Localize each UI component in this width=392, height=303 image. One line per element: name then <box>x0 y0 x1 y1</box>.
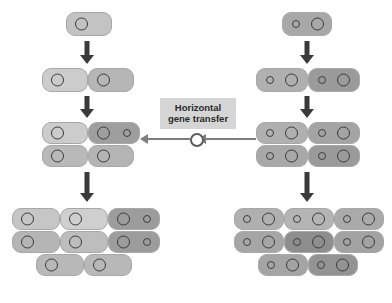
plasmid-circle <box>243 215 251 223</box>
plasmid-circle <box>318 152 326 160</box>
cell-division-arrow <box>296 41 318 64</box>
transfer-arrowhead-left <box>140 134 148 144</box>
bacterial-cell <box>108 208 160 230</box>
arrow-shaft <box>305 41 310 56</box>
arrow-shaft <box>305 172 310 194</box>
arrow-head <box>300 193 314 202</box>
chromosome-circle <box>337 150 350 163</box>
plasmid-circle <box>293 215 301 223</box>
chromosome-circle <box>93 259 106 272</box>
bacterial-cell <box>334 208 384 230</box>
chromosome-circle <box>337 74 350 87</box>
bacterial-cell <box>256 122 308 144</box>
chromosome-circle <box>97 127 110 140</box>
plasmid-circle <box>318 76 326 84</box>
plasmid-circle <box>243 238 251 246</box>
plasmid-circle <box>267 261 275 269</box>
bacterial-cell <box>88 145 134 167</box>
chromosome-circle <box>285 127 298 140</box>
bacterial-cell <box>256 68 308 92</box>
chromosome-circle <box>286 259 299 272</box>
chromosome-circle <box>285 150 298 163</box>
chromosome-circle <box>312 236 325 249</box>
bacterial-cell <box>282 12 332 36</box>
bacterial-cell <box>88 68 134 92</box>
chromosome-circle <box>285 74 298 87</box>
plasmid-circle <box>293 238 301 246</box>
chromosome-circle <box>97 150 110 163</box>
diagram-canvas: Horizontal gene transfer <box>0 0 392 303</box>
bacterial-cell <box>308 68 360 92</box>
arrow-head <box>300 55 314 64</box>
plasmid-circle <box>266 152 274 160</box>
bacterial-cell <box>60 208 108 230</box>
horizontal-gene-transfer-label: Horizontal gene transfer <box>160 98 236 129</box>
chromosome-circle <box>51 127 64 140</box>
arrow-shaft <box>85 172 90 194</box>
bacterial-cell <box>234 231 284 253</box>
arrow-head <box>300 109 314 118</box>
bacterial-cell <box>42 122 88 144</box>
bacterial-cell <box>284 208 334 230</box>
chromosome-circle <box>337 127 350 140</box>
arrow-head <box>80 193 94 202</box>
bacterial-cell <box>60 231 108 253</box>
bacterial-cell <box>334 231 384 253</box>
bacterial-cell <box>84 254 132 276</box>
plasmid-circle <box>266 129 274 137</box>
chromosome-circle <box>362 236 375 249</box>
plasmid-circle <box>292 20 300 28</box>
plasmid-circle <box>143 238 151 246</box>
chromosome-circle <box>51 150 64 163</box>
transfer-line-from-donor <box>206 138 256 140</box>
plasmid-circle <box>343 215 351 223</box>
plasmid-circle <box>317 261 325 269</box>
bacterial-cell <box>256 145 308 167</box>
chromosome-circle <box>311 18 324 31</box>
plasmid-circle <box>143 215 151 223</box>
chromosome-circle <box>362 213 375 226</box>
chromosome-circle <box>75 18 88 31</box>
chromosome-circle <box>117 213 130 226</box>
chromosome-circle <box>69 236 82 249</box>
bacterial-cell <box>308 254 358 276</box>
plasmid-circle <box>266 76 274 84</box>
chromosome-circle <box>21 236 34 249</box>
chromosome-circle <box>262 213 275 226</box>
chromosome-circle <box>97 74 110 87</box>
bacterial-cell <box>284 231 334 253</box>
bacterial-cell <box>308 122 360 144</box>
arrow-shaft <box>85 41 90 56</box>
bacterial-cell <box>108 231 160 253</box>
bacterial-cell <box>42 145 88 167</box>
bacterial-cell <box>66 12 112 36</box>
cell-division-arrow <box>76 172 98 202</box>
bacterial-cell <box>42 68 88 92</box>
chromosome-circle <box>262 236 275 249</box>
chromosome-circle <box>51 74 64 87</box>
plasmid-circle <box>318 129 326 137</box>
cell-division-arrow <box>296 172 318 202</box>
bacterial-cell <box>12 231 60 253</box>
plasmid-circle <box>123 129 131 137</box>
chromosome-circle <box>21 213 34 226</box>
bacterial-cell <box>36 254 84 276</box>
arrow-head <box>80 109 94 118</box>
transferred-plasmid-icon <box>190 133 204 147</box>
cell-division-arrow <box>296 96 318 118</box>
cell-division-arrow <box>76 96 98 118</box>
cell-division-arrow <box>76 41 98 64</box>
bacterial-cell <box>12 208 60 230</box>
bacterial-cell <box>258 254 308 276</box>
bacterial-cell <box>88 122 140 144</box>
transfer-line-to-recipient <box>148 138 190 140</box>
arrow-shaft <box>85 96 90 110</box>
bacterial-cell <box>308 145 360 167</box>
arrow-shaft <box>305 96 310 110</box>
arrow-head <box>80 55 94 64</box>
bacterial-cell <box>234 208 284 230</box>
chromosome-circle <box>117 236 130 249</box>
chromosome-circle <box>45 259 58 272</box>
chromosome-circle <box>312 213 325 226</box>
chromosome-circle <box>336 259 349 272</box>
